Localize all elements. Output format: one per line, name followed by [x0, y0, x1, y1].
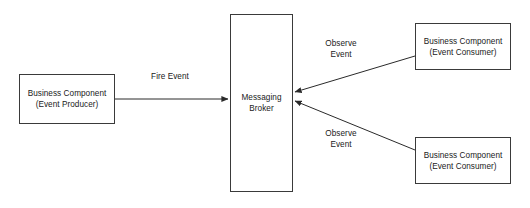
node-business-component-event-consumer-top[interactable]: Business Component (Event Consumer): [415, 23, 511, 70]
edge-label-fire-event-line1: Fire Event: [138, 71, 202, 82]
node-producer-label-line2: (Event Producer): [36, 99, 99, 110]
edge-label-observe-event-top: Observe Event: [313, 38, 369, 60]
connector-observe-event-top: [295, 56, 415, 92]
node-consumer-top-label-line1: Business Component: [424, 36, 503, 47]
node-messaging-broker[interactable]: Messaging Broker: [230, 14, 293, 192]
edge-label-fire-event: Fire Event: [138, 71, 202, 82]
node-producer-label-line1: Business Component: [28, 88, 107, 99]
node-broker-label-line2: Broker: [249, 103, 273, 114]
edge-label-observe-event-bottom: Observe Event: [313, 128, 369, 150]
node-consumer-bottom-label-line2: (Event Consumer): [429, 161, 496, 172]
node-business-component-event-consumer-bottom[interactable]: Business Component (Event Consumer): [415, 137, 511, 184]
node-consumer-bottom-label-line1: Business Component: [424, 150, 503, 161]
edge-label-observe-event-top-line1: Observe: [313, 38, 369, 49]
node-consumer-top-label-line2: (Event Consumer): [429, 47, 496, 58]
edge-label-observe-event-bottom-line1: Observe: [313, 128, 369, 139]
node-broker-label-line1: Messaging: [241, 92, 281, 103]
node-business-component-event-producer[interactable]: Business Component (Event Producer): [19, 74, 115, 124]
diagram-canvas: Business Component (Event Producer) Mess…: [0, 0, 530, 208]
edge-label-observe-event-top-line2: Event: [313, 49, 369, 60]
edge-label-observe-event-bottom-line2: Event: [313, 139, 369, 150]
